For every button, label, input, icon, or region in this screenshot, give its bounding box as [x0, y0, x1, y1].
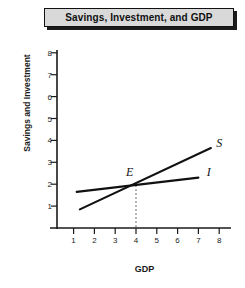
y-axis-tick-label: 2 [38, 180, 52, 189]
chart-series-lines [77, 148, 211, 209]
curve-label-s: S [216, 135, 222, 150]
curve-label-i: I [207, 165, 211, 180]
x-axis-tick-label: 7 [190, 236, 206, 245]
chart-plot-area: Savings and Investment GDP 12345678 1234… [0, 0, 245, 288]
y-axis-tick-label: 4 [38, 136, 52, 145]
y-axis-tick-label: 6 [38, 92, 52, 101]
chart-axes [50, 50, 231, 229]
y-axis-tick-label: 1 [38, 202, 52, 211]
x-axis-tick-marks [74, 228, 220, 234]
x-axis-title: GDP [57, 264, 232, 274]
x-axis-tick-label: 2 [86, 236, 102, 245]
y-axis-tick-label: 3 [38, 158, 52, 167]
y-axis-tick-label: 7 [38, 70, 52, 79]
x-axis-tick-label: 5 [149, 236, 165, 245]
x-axis-tick-label: 8 [211, 236, 227, 245]
x-axis-tick-label: 6 [170, 236, 186, 245]
y-axis-tick-label: 8 [38, 48, 52, 57]
y-axis-title: Savings and Investment [22, 28, 32, 178]
y-axis-tick-label: 5 [38, 114, 52, 123]
x-axis-tick-label: 1 [66, 236, 82, 245]
equilibrium-point-label: E [126, 165, 133, 180]
x-axis-tick-label: 3 [107, 236, 123, 245]
x-axis-tick-label: 4 [128, 236, 144, 245]
x-axis-tick-labels: 12345678 [0, 236, 245, 250]
